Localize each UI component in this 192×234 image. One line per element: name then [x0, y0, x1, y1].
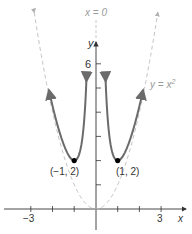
parabola-label: y = x2	[150, 78, 175, 90]
point-left	[72, 158, 77, 163]
point-left-label: (−1, 2)	[50, 167, 79, 177]
parabola-label-text: y = x	[150, 79, 171, 90]
y-tick-label-6: 6	[85, 59, 91, 70]
asymptote-label: x = 0	[85, 8, 107, 18]
curve-left-branch	[49, 79, 86, 160]
y-axis-label: y	[88, 38, 94, 49]
parabola-label-exponent: 2	[171, 78, 175, 85]
point-right	[115, 158, 120, 163]
function-graph	[0, 0, 192, 234]
x-tick-label-3: 3	[157, 214, 163, 224]
x-tick-label-neg3: −3	[23, 214, 34, 224]
curve-right-branch	[106, 79, 143, 160]
x-axis-label: x	[178, 214, 183, 224]
point-right-label: (1, 2)	[116, 167, 139, 177]
y-ticks	[96, 64, 101, 185]
